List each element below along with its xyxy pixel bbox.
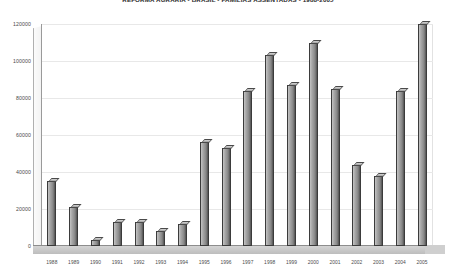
bar-top-face (310, 40, 322, 44)
bar-top-face (353, 162, 365, 166)
x-tick-label: 1989 (63, 260, 85, 265)
bar (135, 222, 144, 246)
bar (113, 222, 122, 246)
x-tick-label: 1999 (280, 260, 302, 265)
bar-face (178, 224, 187, 246)
bar-face (352, 165, 361, 246)
bar-face (287, 85, 296, 246)
bar (91, 240, 100, 246)
x-tick-label: 1993 (150, 260, 172, 265)
bar (352, 165, 361, 246)
bar-top-face (223, 145, 235, 149)
bar (331, 89, 340, 246)
bar (222, 148, 231, 246)
bar-chart: REFORMA AGRÁRIA - BRASIL - FAMÍLIAS ASSE… (0, 0, 456, 275)
bar-top-face (114, 219, 126, 223)
y-tick-label: 120000 (1, 21, 31, 27)
x-tick-label: 1991 (106, 260, 128, 265)
chart-title: REFORMA AGRÁRIA - BRASIL - FAMÍLIAS ASSE… (0, 0, 456, 3)
bar-face (47, 181, 56, 246)
bar (265, 55, 274, 246)
bar-top-face (48, 178, 60, 182)
bar (243, 91, 252, 246)
bar-top-face (92, 237, 104, 241)
y-tick-label: 0 (1, 243, 31, 249)
bar (396, 91, 405, 246)
x-tick-label: 2005 (411, 260, 433, 265)
bar-face (418, 24, 427, 246)
x-axis-labels: 1988198919901991199219931994199519961997… (33, 255, 445, 265)
bar-face (243, 91, 252, 246)
bar-top-face (201, 139, 213, 143)
x-tick-label: 2004 (389, 260, 411, 265)
bar-face (309, 43, 318, 247)
x-tick-label: 1994 (172, 260, 194, 265)
bar-top-face (332, 86, 344, 90)
bar (156, 231, 165, 246)
bar-top-face (266, 52, 278, 56)
bar-top-face (375, 173, 387, 177)
bar (47, 181, 56, 246)
bar-face (222, 148, 231, 246)
bar-top-face (157, 228, 169, 232)
y-tick-label: 100000 (1, 58, 31, 64)
chart-floor (33, 245, 445, 254)
bar-top-face (70, 204, 82, 208)
bars-layer (33, 24, 433, 246)
x-tick-label: 1997 (237, 260, 259, 265)
y-tick-label: 40000 (1, 169, 31, 175)
y-tick-label: 60000 (1, 132, 31, 138)
bar (200, 142, 209, 246)
bar-top-face (179, 221, 191, 225)
bar-face (113, 222, 122, 246)
x-tick-label: 2000 (302, 260, 324, 265)
bar-face (396, 91, 405, 246)
bar-face (331, 89, 340, 246)
bar (309, 43, 318, 247)
bar-face (156, 231, 165, 246)
x-tick-label: 2002 (346, 260, 368, 265)
bar (178, 224, 187, 246)
y-tick-label: 80000 (1, 95, 31, 101)
x-tick-label: 1995 (193, 260, 215, 265)
bar-top-face (288, 82, 300, 86)
chart-floor-edge (425, 245, 445, 254)
x-tick-label: 1990 (84, 260, 106, 265)
x-tick-label: 1988 (41, 260, 63, 265)
bar-top-face (397, 88, 409, 92)
x-tick-label: 2001 (324, 260, 346, 265)
bar (287, 85, 296, 246)
bar-top-face (244, 88, 256, 92)
y-axis-labels: 120000100000800006000040000200000 (0, 0, 31, 275)
bar-face (200, 142, 209, 246)
x-tick-label: 1998 (259, 260, 281, 265)
bar-face (265, 55, 274, 246)
bar-face (135, 222, 144, 246)
bar-top-face (136, 219, 148, 223)
bar (69, 207, 78, 246)
bar (374, 176, 383, 246)
bar (418, 24, 427, 246)
bar-face (374, 176, 383, 246)
y-tick-label: 20000 (1, 206, 31, 212)
x-tick-label: 2003 (368, 260, 390, 265)
x-tick-label: 1996 (215, 260, 237, 265)
x-tick-label: 1992 (128, 260, 150, 265)
bar-top-face (419, 21, 431, 25)
bar-face (69, 207, 78, 246)
